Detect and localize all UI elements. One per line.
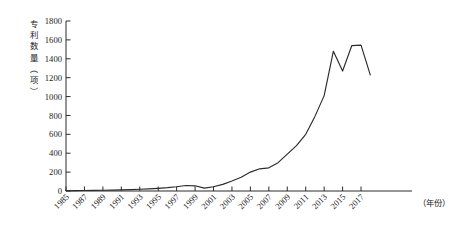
y-axis-title-char: ） (29, 87, 39, 95)
x-axis-title: （年份） (418, 198, 450, 208)
y-axis-title-char: （ (29, 65, 39, 73)
y-tick-label: 1200 (45, 73, 62, 83)
x-tick-label: 1997 (162, 191, 182, 211)
x-tick-label: 1993 (125, 192, 144, 211)
y-axis-title-char: 利 (30, 30, 38, 40)
y-tick-label: 200 (49, 167, 62, 177)
x-tick-label: 1985 (52, 192, 71, 211)
y-axis-title-char: 专 (30, 19, 38, 29)
x-tick-label: 2005 (236, 192, 255, 211)
y-tick-label: 600 (49, 129, 62, 139)
x-tick-label: 2013 (310, 192, 329, 211)
patent-count-line-chart: 专利数量（项） 02004006008001000120014001600180… (0, 0, 465, 232)
y-tick-label: 400 (49, 148, 62, 158)
x-tick-label: 1999 (181, 192, 200, 211)
x-tick-label: 2015 (328, 192, 347, 211)
patent-count-series-line (66, 45, 370, 191)
y-tick-label: 1000 (45, 92, 62, 102)
x-tick-label: 1995 (144, 192, 163, 211)
x-tick-label: 2011 (292, 192, 311, 211)
y-tick-label: 1400 (45, 54, 62, 64)
y-axis-title: 专利数量（项） (29, 19, 39, 95)
x-axis-tick-labels: 1985198719891991199319951997199920012003… (52, 191, 367, 211)
y-tick-label: 1600 (45, 35, 62, 45)
x-tick-label: 1987 (70, 191, 90, 211)
x-tick-label: 2001 (199, 192, 218, 211)
y-axis-title-char: 量 (30, 53, 38, 63)
y-axis-tick-marks (66, 21, 71, 191)
y-axis-tick-labels: 020040060080010001200140016001800 (45, 16, 62, 196)
y-axis-title-char: 项 (30, 75, 39, 85)
y-tick-label: 1800 (45, 16, 62, 26)
x-tick-label: 2003 (218, 192, 237, 211)
y-axis-title-char: 数 (30, 41, 39, 51)
x-tick-label: 2017 (347, 191, 367, 211)
x-tick-label: 2007 (255, 191, 275, 211)
x-tick-label: 1989 (89, 192, 108, 211)
y-tick-label: 800 (49, 111, 62, 121)
chart-canvas: 专利数量（项） 02004006008001000120014001600180… (0, 0, 465, 232)
x-tick-label: 2009 (273, 192, 292, 211)
x-tick-label: 1991 (107, 192, 126, 211)
